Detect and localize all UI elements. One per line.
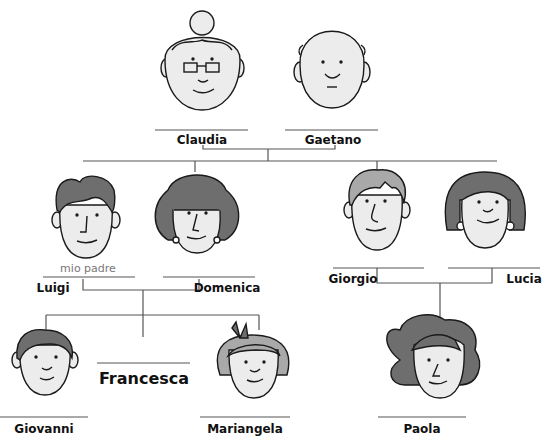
luigi-face-icon bbox=[52, 176, 120, 258]
name-claudia: Claudia bbox=[177, 133, 227, 147]
name-domenica: Domenica bbox=[194, 281, 261, 295]
gaetano-face-icon bbox=[294, 31, 370, 108]
name-giorgio: Giorgio bbox=[328, 272, 377, 286]
name-mariangela: Mariangela bbox=[207, 422, 283, 436]
name-francesca: Francesca bbox=[99, 369, 189, 388]
name-gaetano: Gaetano bbox=[305, 133, 362, 147]
name-paola: Paola bbox=[403, 422, 440, 436]
mariangela-face-icon bbox=[217, 322, 288, 398]
name-giovanni: Giovanni bbox=[14, 422, 73, 436]
name-luigi: Luigi bbox=[36, 281, 69, 295]
note-luigi: mio padre bbox=[60, 262, 116, 275]
domenica-face-icon bbox=[155, 175, 238, 253]
lucia-face-icon bbox=[445, 172, 525, 248]
family-tree-lines bbox=[0, 0, 545, 440]
giorgio-face-icon bbox=[344, 170, 410, 250]
name-lucia: Lucia bbox=[506, 272, 542, 286]
paola-face-icon bbox=[387, 315, 480, 398]
claudia-face-icon bbox=[161, 11, 244, 110]
giovanni-face-icon bbox=[12, 330, 78, 395]
